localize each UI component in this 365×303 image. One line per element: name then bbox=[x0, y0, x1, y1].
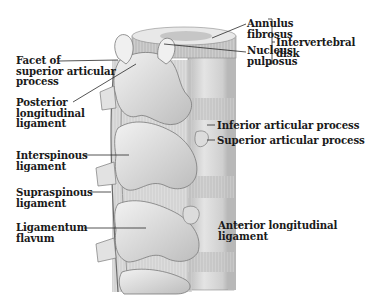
label-inferior-articular-process: Inferior articular process bbox=[217, 120, 359, 131]
label-interspinous-ligament: Interspinous ligament bbox=[16, 150, 88, 171]
spine-ligament-diagram: Annulus fibrosus Nucleus pulposus Interv… bbox=[0, 0, 365, 303]
label-facet-superior-articular-process: Facet of superior articular process bbox=[16, 55, 116, 87]
label-posterior-longitudinal-ligament: Posterior longitudinal ligament bbox=[16, 97, 85, 129]
label-ligamentum-flavum: Ligamentum flavum bbox=[16, 222, 87, 243]
label-intervertebral-disk: Intervertebral disk bbox=[276, 37, 355, 58]
label-supraspinous-ligament: Supraspinous ligament bbox=[16, 187, 93, 208]
label-anterior-longitudinal-ligament: Anterior longitudinal ligament bbox=[218, 220, 337, 241]
label-superior-articular-process: Superior articular process bbox=[217, 135, 365, 146]
